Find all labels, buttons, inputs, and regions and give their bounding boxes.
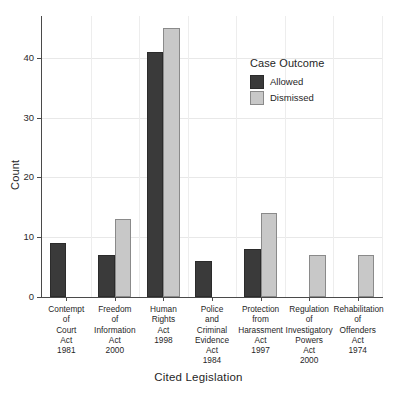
x-category-label: Rehabilitation of Offenders Act 1974: [333, 304, 382, 355]
bar-allowed[interactable]: [98, 255, 115, 297]
x-tick-mark: [163, 297, 164, 301]
x-category-label: Regulation of Investigatory Powers Act 2…: [285, 304, 334, 366]
gridline-horizontal: [42, 237, 382, 238]
gridline-horizontal: [42, 177, 382, 178]
legend: Case Outcome Allowed Dismissed: [250, 57, 370, 106]
x-category-label: Protection from Harassment Act 1997: [236, 304, 285, 355]
legend-label-dismissed: Dismissed: [270, 92, 314, 103]
bar-chart: Count 010203040 Contempt of Court Act 19…: [0, 0, 397, 398]
gridline-vertical: [188, 16, 189, 297]
x-tick-mark: [261, 297, 262, 301]
gridline-vertical: [91, 16, 92, 297]
y-tick-label: 10: [14, 231, 34, 242]
y-tick-label: 40: [14, 52, 34, 63]
bar-allowed[interactable]: [244, 249, 261, 297]
bar-dismissed[interactable]: [163, 28, 180, 297]
bar-dismissed[interactable]: [261, 213, 278, 297]
bar-allowed[interactable]: [147, 52, 164, 297]
legend-swatch-allowed-icon: [250, 75, 264, 89]
legend-title: Case Outcome: [250, 57, 370, 69]
legend-item-allowed[interactable]: Allowed: [250, 74, 370, 89]
y-tick-mark: [37, 118, 41, 119]
x-tick-mark: [212, 297, 213, 301]
x-tick-mark: [358, 297, 359, 301]
x-axis-title: Cited Legislation: [0, 371, 397, 383]
legend-swatch-dismissed-icon: [250, 91, 264, 105]
x-category-label: Police and Criminal Evidence Act 1984: [188, 304, 237, 366]
x-tick-mark: [309, 297, 310, 301]
y-tick-label: 20: [14, 171, 34, 182]
gridline-vertical: [139, 16, 140, 297]
legend-label-allowed: Allowed: [270, 76, 303, 87]
legend-item-dismissed[interactable]: Dismissed: [250, 90, 370, 105]
y-tick-mark: [37, 297, 41, 298]
x-tick-mark: [66, 297, 67, 301]
gridline-vertical: [382, 16, 383, 297]
bar-dismissed[interactable]: [309, 255, 326, 297]
bar-dismissed[interactable]: [358, 255, 375, 297]
gridline-horizontal: [42, 118, 382, 119]
x-tick-mark: [115, 297, 116, 301]
y-tick-mark: [37, 177, 41, 178]
gridline-vertical: [236, 16, 237, 297]
bar-dismissed[interactable]: [115, 219, 132, 297]
x-category-label: Freedom of Information Act 2000: [91, 304, 140, 355]
y-tick-mark: [37, 237, 41, 238]
bar-allowed[interactable]: [195, 261, 212, 297]
y-tick-label: 0: [14, 291, 34, 302]
x-category-label: Human Rights Act 1998: [139, 304, 188, 345]
y-tick-label: 30: [14, 112, 34, 123]
bar-allowed[interactable]: [50, 243, 67, 297]
y-tick-mark: [37, 58, 41, 59]
x-category-label: Contempt of Court Act 1981: [42, 304, 91, 355]
